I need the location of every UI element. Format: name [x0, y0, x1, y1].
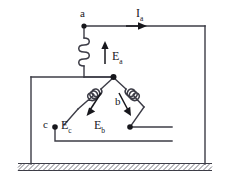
emf-ec-label: Ec [61, 119, 72, 134]
emf-eb-subscript: b [101, 126, 105, 135]
phase-c-winding [78, 89, 102, 109]
circuit-diagram: a b c Ia Ea Ec Eb [0, 0, 230, 183]
node-b-label: b [115, 96, 121, 107]
circuit-schematic-canvas [0, 0, 230, 183]
line-c-conductor [55, 127, 172, 141]
node-b-dot [127, 124, 133, 130]
phase-b-upper-lead [114, 78, 126, 89]
node-c-dot [52, 124, 58, 130]
current-ia-label: Ia [136, 7, 143, 22]
earth-ground [18, 164, 212, 171]
emf-ea-subscript: a [119, 57, 122, 66]
node-a-label: a [80, 8, 85, 19]
ground-hatch-fill [18, 164, 212, 171]
phase-a-winding [79, 38, 90, 66]
current-arrow-ia [126, 22, 147, 30]
phase-c-upper-lead [101, 78, 113, 89]
emf-ec-subscript: c [68, 126, 71, 135]
emf-arrow-ea [101, 41, 108, 64]
node-a-dot [81, 23, 86, 28]
current-ia-subscript: a [140, 14, 143, 23]
emf-ea-label: Ea [112, 50, 123, 65]
phase-b-lower-lead [130, 107, 144, 127]
star-point [111, 74, 117, 80]
node-c-label: c [43, 119, 48, 130]
phase-b-winding [125, 89, 144, 107]
emf-eb-label: Eb [94, 119, 105, 134]
